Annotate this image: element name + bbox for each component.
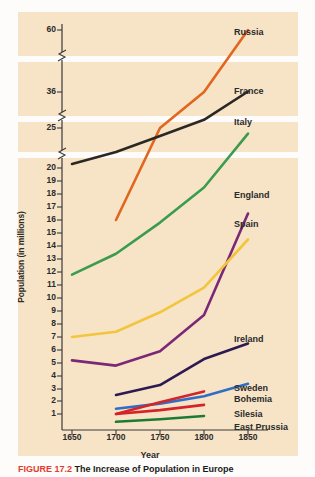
series-label-group: RussiaFranceItalyEnglandSpainIrelandSwed… [0, 0, 315, 477]
y-axis-title: Population (in millions) [16, 197, 26, 317]
figure-caption-text: The Increase of Population in Europe [75, 464, 234, 474]
series-label-silesia: Silesia [234, 409, 263, 419]
series-label-italy: Italy [234, 117, 252, 127]
figure-number: FIGURE 17.2 [18, 464, 72, 474]
series-label-east-prussia: East Prussia [234, 422, 288, 432]
series-label-sweden: Sweden [234, 383, 268, 393]
series-label-france: France [234, 86, 264, 96]
figure-population-europe: 6036252019181716151413121110987654321 16… [0, 0, 315, 477]
series-label-spain: Spain [234, 219, 259, 229]
figure-caption: FIGURE 17.2 The Increase of Population i… [18, 464, 308, 477]
series-label-bohemia: Bohemia [234, 394, 272, 404]
series-label-england: England [234, 190, 270, 200]
series-label-russia: Russia [234, 27, 264, 37]
series-label-ireland: Ireland [234, 334, 264, 344]
x-axis-title: Year [60, 450, 240, 460]
